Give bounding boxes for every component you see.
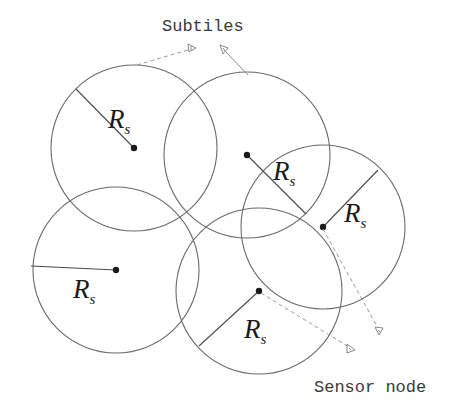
radius-label-a: Rs [107,104,131,137]
radius-line-a [76,89,134,148]
sensor-node-b [244,152,250,158]
subtiles-label: Subtiles [162,17,244,36]
arrowhead-icon [347,344,355,353]
subtiles-leaders [137,44,248,75]
sensor-node-label: Sensor node [314,378,426,397]
sensor-node-leader-e [261,293,349,347]
sensor-node-d [113,267,119,273]
radius-line-d [31,266,116,270]
sensor-node-a [131,145,137,151]
subtiles-leader-b [226,52,248,75]
sensor-node-leader-c [323,229,378,328]
radius-lines [31,89,378,346]
radius-label-e: Rs [243,314,267,347]
radius-label-d: Rs [72,274,96,307]
sensor-coverage-diagram: Rs Rs Rs Rs Rs Subtiles Sensor node [0,0,469,417]
radius-label-b: Rs [272,156,296,189]
arrowhead-icon [188,44,196,52]
arrowhead-icon [375,327,383,335]
sensor-nodes [113,145,326,294]
subtiles-leader-a [137,49,191,65]
sensor-node-leaders [261,229,383,353]
radius-label-c: Rs [343,198,367,231]
